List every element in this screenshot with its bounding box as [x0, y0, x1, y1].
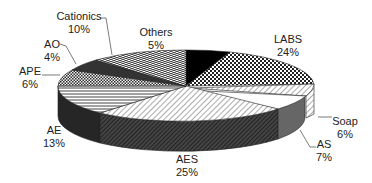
label-ao-name: AO — [40, 38, 64, 51]
label-ao: AO 4% — [40, 38, 64, 64]
label-as-name: AS — [312, 138, 336, 151]
label-aes-pct: 25% — [170, 166, 204, 179]
label-as: AS 7% — [312, 138, 336, 164]
label-labs-name: LABS — [268, 33, 308, 46]
label-aes-name: AES — [170, 153, 204, 166]
label-soap-name: Soap — [328, 115, 362, 128]
label-labs: LABS 24% — [268, 33, 308, 59]
label-ao-pct: 4% — [40, 51, 64, 64]
label-cationics-pct: 10% — [54, 23, 104, 36]
label-aes: AES 25% — [170, 153, 204, 179]
label-ae: AE 13% — [40, 124, 68, 150]
label-cationics-name: Cationics — [54, 10, 104, 23]
label-ae-name: AE — [40, 124, 68, 137]
label-others: Others 5% — [136, 26, 176, 52]
label-cationics: Cationics 10% — [54, 10, 104, 36]
label-as-pct: 7% — [312, 151, 336, 164]
label-ae-pct: 13% — [40, 137, 68, 150]
label-ape-name: APE — [16, 65, 44, 78]
label-ape: APE 6% — [16, 65, 44, 91]
label-labs-pct: 24% — [268, 46, 308, 59]
label-ape-pct: 6% — [16, 78, 44, 91]
label-others-pct: 5% — [136, 39, 176, 52]
label-others-name: Others — [136, 26, 176, 39]
